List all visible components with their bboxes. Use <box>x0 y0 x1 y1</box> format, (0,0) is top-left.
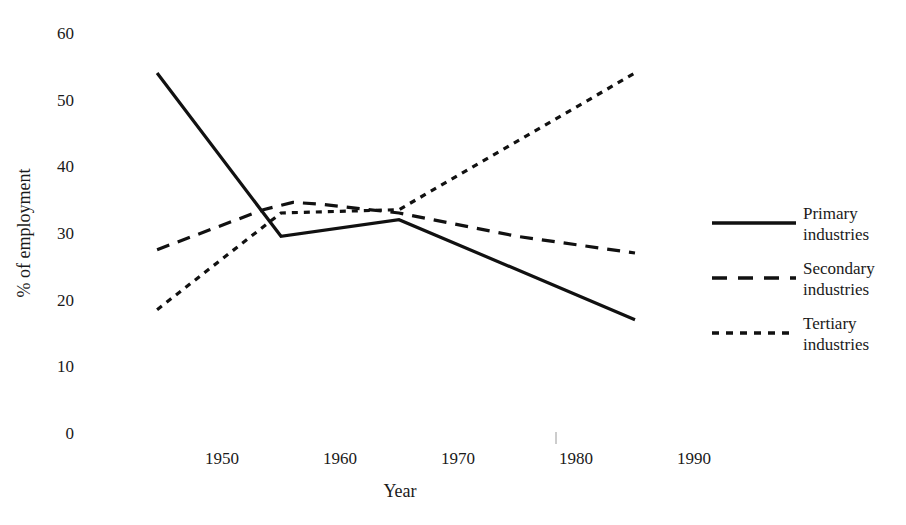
y-tick-label-10: 10 <box>57 357 74 376</box>
plot-series-group <box>157 73 635 320</box>
legend-label-primary-line2: industries <box>803 225 869 244</box>
y-tick-label-30: 30 <box>57 224 74 243</box>
series-line-secondary <box>157 202 635 253</box>
legend-label-tertiary-line1: Tertiary <box>803 314 857 333</box>
series-line-primary <box>157 73 635 320</box>
x-tick-label-1980: 1980 <box>559 449 593 468</box>
y-tick-label-60: 60 <box>57 24 74 43</box>
y-tick-label-50: 50 <box>57 91 74 110</box>
y-tick-label-20: 20 <box>57 291 74 310</box>
y-axis-title: % of employment <box>14 169 34 298</box>
y-axis-tick-labels: 60 50 40 30 20 10 0 <box>57 24 74 443</box>
x-tick-label-1990: 1990 <box>677 449 711 468</box>
legend-item-tertiary[interactable]: Tertiary industries <box>712 314 869 354</box>
legend-label-secondary-line1: Secondary <box>803 259 875 278</box>
line-chart-employment-by-sector: 60 50 40 30 20 10 0 % of employment 1950… <box>0 0 906 525</box>
x-tick-label-1960: 1960 <box>323 449 357 468</box>
legend-label-secondary-line2: industries <box>803 280 869 299</box>
legend-label-primary-line1: Primary <box>803 204 858 223</box>
x-tick-label-1950: 1950 <box>205 449 239 468</box>
legend-item-secondary[interactable]: Secondary industries <box>712 259 875 299</box>
x-axis-title: Year <box>383 481 416 501</box>
x-tick-label-1970: 1970 <box>441 449 475 468</box>
legend-item-primary[interactable]: Primary industries <box>712 204 869 244</box>
y-tick-label-0: 0 <box>66 424 75 443</box>
y-tick-label-40: 40 <box>57 157 74 176</box>
x-axis-tick-labels: 1950 1960 1970 1980 1990 <box>205 449 711 468</box>
legend: Primary industries Secondary industries … <box>712 204 875 354</box>
series-line-tertiary <box>157 73 635 310</box>
chart-canvas: 60 50 40 30 20 10 0 % of employment 1950… <box>0 0 906 525</box>
legend-label-tertiary-line2: industries <box>803 335 869 354</box>
